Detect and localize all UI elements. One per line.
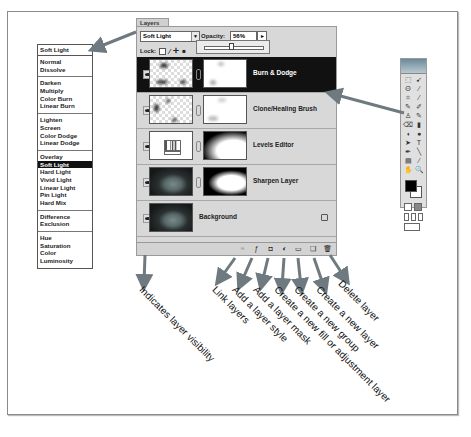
blend-item[interactable]: Normal	[38, 58, 92, 66]
blend-item[interactable]: Linear Light	[38, 184, 92, 192]
layer-thumbnail	[149, 95, 193, 124]
layers-panel: Soft Light ▼ Opacity: 56% ▸ Lock: ⁄ ✛ ■	[136, 26, 337, 256]
layer-name: Burn & Dodge	[253, 69, 297, 76]
layer-row-background[interactable]: Background	[137, 201, 336, 237]
blend-item[interactable]: Darken	[38, 79, 92, 87]
layer-style-icon[interactable]: ƒ	[253, 245, 260, 252]
layer-row-levels[interactable]: Levels Editor	[137, 129, 336, 165]
layer-name: Sharpen Layer	[253, 177, 298, 184]
levels-adjustment-icon	[149, 131, 193, 160]
lasso-tool-icon[interactable]: ʘ	[403, 85, 413, 93]
new-layer-icon[interactable]: ❏	[309, 245, 316, 252]
brush-tool-icon[interactable]: ✐	[414, 103, 424, 111]
blend-item[interactable]: Dissolve	[38, 66, 92, 74]
layer-mask-icon[interactable]: ◘	[267, 245, 274, 252]
blend-item[interactable]: Color Burn	[38, 95, 92, 103]
blend-mode-value: Soft Light	[143, 33, 171, 39]
line-tool-icon[interactable]: ╲	[414, 148, 424, 156]
crop-tool-icon[interactable]: ⌗	[403, 94, 413, 102]
notes-tool-icon[interactable]: ▤	[403, 157, 413, 165]
foreground-color-swatch[interactable]	[405, 180, 417, 192]
eyedropper-icon[interactable]: ⁄	[414, 157, 424, 165]
move-tool-icon[interactable]: ➹	[414, 76, 424, 84]
blend-item[interactable]: Pin Light	[38, 191, 92, 199]
layer-thumbnail	[149, 59, 193, 88]
blend-item[interactable]: Hue	[38, 234, 92, 242]
lock-all-icon[interactable]: ■	[182, 48, 186, 54]
screen-mode-row	[401, 212, 426, 222]
link-icon	[196, 69, 201, 80]
layer-row-burn-dodge[interactable]: Burn & Dodge	[137, 57, 336, 93]
lock-label: Lock:	[140, 48, 156, 54]
link-layers-icon[interactable]: ∞	[239, 245, 246, 252]
layers-list: Burn & Dodge Clone/Healing Brush	[137, 57, 336, 237]
pen-tool-icon[interactable]: ✒	[403, 148, 413, 156]
layer-mask-thumbnail	[203, 95, 247, 124]
layer-thumbnail	[149, 203, 193, 232]
blend-mode-select[interactable]: Soft Light ▼	[140, 31, 200, 42]
blend-item[interactable]: Color	[38, 249, 92, 257]
blend-item[interactable]: Color Dodge	[38, 132, 92, 140]
lock-transparency-icon[interactable]	[159, 48, 166, 55]
blend-item[interactable]: Luminosity	[38, 257, 92, 265]
dodge-tool-icon[interactable]: ●	[414, 130, 424, 138]
toolbox-header	[401, 59, 426, 74]
blend-item[interactable]: Saturation	[38, 242, 92, 250]
marquee-tool-icon[interactable]: ⬚	[403, 76, 413, 84]
history-brush-icon[interactable]: ✎	[414, 112, 424, 120]
adjustment-layer-icon[interactable]: ◐	[281, 245, 288, 252]
magic-wand-icon[interactable]: ⁄	[414, 85, 424, 93]
opacity-slider-thumb[interactable]	[229, 43, 234, 50]
blend-item[interactable]: Hard Mix	[38, 199, 92, 207]
color-swatches[interactable]	[405, 180, 426, 202]
link-icon	[196, 141, 201, 152]
blend-item[interactable]: Difference	[38, 213, 92, 221]
layer-mask-thumbnail	[203, 59, 247, 88]
blend-item[interactable]: Linear Dodge	[38, 139, 92, 147]
blend-item[interactable]: Overlay	[38, 153, 92, 161]
standard-mode-icon[interactable]	[404, 203, 412, 211]
jump-row	[401, 222, 426, 232]
quick-mask-row	[401, 202, 426, 212]
new-group-icon[interactable]: ▭	[295, 245, 302, 252]
opacity-slider-track[interactable]	[204, 46, 264, 50]
gradient-tool-icon[interactable]: ▮	[414, 121, 424, 129]
eraser-tool-icon[interactable]: ⌫	[403, 121, 413, 129]
zoom-tool-icon[interactable]: 🔍	[414, 166, 424, 174]
screen-mode-standard-icon[interactable]	[404, 213, 409, 221]
layer-row-sharpen[interactable]: Sharpen Layer	[137, 165, 336, 201]
slice-tool-icon[interactable]: ⁄	[414, 94, 424, 102]
healing-brush-icon[interactable]: ✎	[403, 103, 413, 111]
stamp-tool-icon[interactable]: ♙	[403, 112, 413, 120]
screen-mode-full-icon[interactable]	[418, 213, 423, 221]
blend-group-contrast: Overlay Soft Light Hard Light Vivid Ligh…	[38, 151, 92, 211]
trash-icon[interactable]: 🗑	[323, 245, 330, 252]
blend-item[interactable]: Screen	[38, 124, 92, 132]
blend-item[interactable]: Hard Light	[38, 168, 92, 176]
blur-tool-icon[interactable]: ◖	[403, 130, 413, 138]
blend-mode-menu: Soft Light Normal Dissolve Darken Multip…	[37, 44, 93, 269]
layer-row-clone-healing[interactable]: Clone/Healing Brush	[137, 93, 336, 129]
quick-mask-icon[interactable]	[414, 203, 422, 211]
blend-group-darken: Darken Multiply Color Burn Linear Burn	[38, 77, 92, 114]
layer-name: Levels Editor	[253, 141, 294, 148]
lock-move-icon[interactable]: ✛	[173, 47, 179, 55]
blend-item[interactable]: Vivid Light	[38, 176, 92, 184]
blend-group-difference: Difference Exclusion	[38, 211, 92, 232]
blend-item[interactable]: Multiply	[38, 87, 92, 95]
tool-grid: ⬚ ➹ ʘ ⁄ ⌗ ⁄ ✎ ✐ ♙ ✎ ⌫ ▮ ◖ ● ➤ T ✒ ╲ ▤ ⁄ …	[401, 74, 426, 176]
layer-mask-thumbnail	[203, 131, 247, 160]
path-select-icon[interactable]: ➤	[403, 139, 413, 147]
blend-item[interactable]: Exclusion	[38, 220, 92, 228]
layer-name: Clone/Healing Brush	[253, 105, 317, 112]
blend-menu-current: Soft Light	[38, 45, 92, 56]
jump-to-imageready-icon[interactable]	[404, 223, 420, 231]
lock-brush-icon[interactable]: ⁄	[169, 48, 170, 55]
blend-item-selected[interactable]: Soft Light	[38, 161, 92, 169]
opacity-slider-popup	[196, 40, 270, 54]
blend-item[interactable]: Lighten	[38, 116, 92, 124]
blend-item[interactable]: Linear Burn	[38, 102, 92, 110]
screen-mode-full-menu-icon[interactable]	[411, 213, 416, 221]
hand-tool-icon[interactable]: ✋	[403, 166, 413, 174]
type-tool-icon[interactable]: T	[414, 139, 424, 147]
